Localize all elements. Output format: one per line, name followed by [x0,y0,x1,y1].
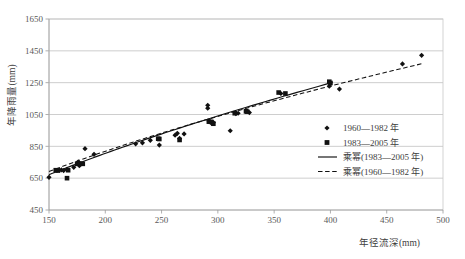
data-point-square [245,109,250,114]
x-axis-title: 年径流深(mm) [359,237,420,249]
y-tick-label: 1250 [25,78,44,88]
legend-label: 乘幂(1960—1982 年) [343,166,423,177]
legend-label: 1983—2005 年 [343,137,399,148]
data-point-square [56,168,61,173]
y-tick-label: 1050 [25,110,44,120]
y-tick-label: 1450 [25,46,44,56]
x-tick-label: 150 [42,215,56,225]
legend-label: 1960—1982 年 [343,122,399,133]
legend-label: 乘幂(1983—2005 年) [343,151,423,162]
x-tick-label: 400 [324,215,338,225]
x-tick-label: 300 [211,215,225,225]
x-tick-label: 500 [436,215,450,225]
y-tick-label: 1650 [25,14,44,24]
data-point-square [211,121,216,126]
data-point-square [177,138,182,143]
data-point-square [65,176,70,181]
y-tick-label: 850 [30,142,44,152]
data-point-square [66,168,71,173]
legend-marker-square [325,140,330,145]
x-tick-label: 200 [99,215,113,225]
x-tick-label: 250 [155,215,169,225]
y-axis-title: 年降雨量(mm) [6,64,18,125]
data-point-square [80,162,85,167]
y-tick-label: 650 [30,173,44,183]
data-point-square [232,111,237,116]
data-point-square [328,81,333,86]
x-tick-label: 350 [267,215,281,225]
y-tick-label: 450 [30,205,44,215]
scatter-plot: 4506508501050125014501650150200250300350… [0,0,465,259]
x-tick-label: 450 [380,215,394,225]
chart-container: 4506508501050125014501650150200250300350… [0,0,465,259]
data-point-square [157,137,162,142]
data-point-square [276,90,281,95]
data-point-square [283,91,288,96]
